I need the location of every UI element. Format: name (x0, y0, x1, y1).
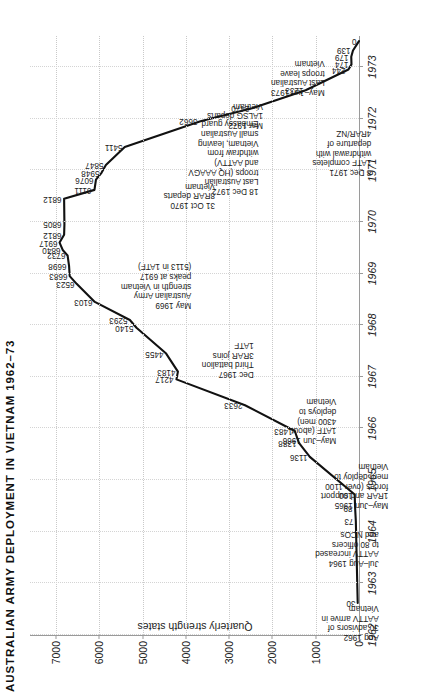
annotation-line: 30 advisors of (322, 622, 379, 632)
data-point-label: 5847 (85, 161, 103, 170)
data-point-label: 5411 (105, 143, 123, 152)
y-tick-mark (185, 635, 186, 639)
y-axis-tick-label: 7000 (50, 641, 62, 687)
annotation-may-jun-1966: May–Jun 19661ATF (about4300 men)deploys … (283, 397, 337, 445)
data-point-label: 6683 (49, 272, 67, 281)
annotation-line: 1ATF (202, 340, 254, 350)
x-tick-mark (359, 66, 363, 67)
annotation-line: Jul–Aug 1964 (316, 558, 380, 568)
annotation-line: strength in Vietnam (121, 282, 191, 292)
annotation-line: Embassy guard (188, 119, 258, 129)
annotation-line: Vietnam (321, 462, 388, 472)
data-point-label: 6698 (48, 261, 66, 270)
annotation-line: May–Jun 1973 (271, 87, 325, 97)
gridline-vertical (30, 634, 359, 635)
y-axis-tick-label: 2000 (266, 641, 278, 687)
gridline-horizontal (186, 36, 187, 635)
data-point-label: 5140 (116, 323, 134, 332)
annotation-line: Last Australian (188, 177, 258, 187)
gridline-horizontal (143, 36, 144, 635)
annotation-may-jun-1973: May–Jun 1973Last Australiantroops leaveV… (271, 58, 325, 97)
annotation-line: 18 Dec 1972 (188, 186, 258, 196)
x-axis-tick-label: 1972 (366, 107, 378, 130)
x-axis-tick-label: 1966 (366, 417, 378, 440)
annotation-line: 1ATF completes (312, 158, 371, 168)
y-tick-mark (315, 635, 316, 639)
x-axis-tick-label: 1967 (366, 365, 378, 388)
gridline-horizontal (56, 36, 57, 635)
x-tick-mark (359, 376, 363, 377)
annotation-line: Vietnam (207, 101, 263, 111)
annotation-line: May 1969 (121, 301, 191, 311)
annotation-line: forces (over 1100 (321, 481, 388, 491)
x-tick-mark (359, 324, 363, 325)
data-point-label: 5293 (109, 316, 127, 325)
y-axis-tick-label: 1000 (310, 641, 322, 687)
gridline-vertical (30, 479, 359, 480)
data-point-label: 6812 (43, 230, 61, 239)
data-point-label: 0 (352, 37, 357, 46)
annotation-line: peaks at 6917 (121, 272, 191, 282)
annotation-line: Last Australian (271, 77, 325, 87)
page-title: AUSTRALIAN ARMY DEPLOYMENT IN VIETNAM 19… (4, 340, 16, 692)
x-tick-mark (359, 273, 363, 274)
y-tick-mark (229, 635, 230, 639)
annotation-line: 4RAR/NZ (312, 129, 371, 139)
annotation-line: Vietnam (322, 603, 379, 613)
annotation-line: Aug 1962 (322, 632, 379, 642)
gridline-vertical (30, 324, 359, 325)
gridline-vertical (30, 582, 359, 583)
figure-rotation-wrapper: AUSTRALIAN ARMY DEPLOYMENT IN VIETNAM 19… (0, 0, 430, 698)
annotation-line: Vietnam (283, 397, 337, 407)
gridline-vertical (30, 221, 359, 222)
annotation-line: deploys to (283, 407, 337, 417)
y-tick-mark (99, 635, 100, 639)
annotation-line: May–Jun 1966 (283, 436, 337, 446)
data-point-label: 6103 (74, 297, 92, 306)
data-point-label: 6812 (43, 194, 61, 203)
x-tick-mark (359, 582, 363, 583)
data-point-label: 6805 (44, 220, 62, 229)
y-tick-mark (142, 635, 143, 639)
annotation-may-jun-1965: May–Jun 19651RAR and supportforces (over… (321, 462, 388, 510)
annotation-line: (5113 in 1ATF) (121, 262, 191, 272)
gridline-horizontal (272, 36, 273, 635)
annotation-aug-1962: Aug 196230 advisors ofAATTV arrive inVie… (322, 603, 379, 642)
gridline-vertical (30, 376, 359, 377)
x-axis-tick-label: 1970 (366, 210, 378, 233)
annotation-line: Third battalion (202, 359, 254, 369)
y-axis-tick-label: 0 (353, 641, 365, 687)
annotation-dec-1967: Dec 1967Third battalion3RAR joins1ATF (202, 340, 254, 379)
data-point-label: 2633 (224, 401, 242, 410)
annotation-line: AATTV arrive in (322, 613, 379, 623)
x-tick-mark (359, 118, 363, 119)
x-axis-tick-label: 1968 (366, 314, 378, 337)
annotation-line: 4300 men) (283, 417, 337, 427)
x-axis-tick-label: 1969 (366, 262, 378, 285)
y-tick-mark (55, 635, 56, 639)
annotation-dec-1971: 8 Dec 19711ATF completeswithdrawal withd… (312, 129, 371, 177)
data-point-label: 73 (344, 517, 353, 526)
annotation-line: withdraw from (188, 148, 258, 158)
annotation-dec-1972: 18 Dec 1972Last Australiantroops (HQ AAA… (188, 119, 258, 196)
y-axis-tick-label: 3000 (223, 641, 235, 687)
chart-figure: AUSTRALIAN ARMY DEPLOYMENT IN VIETNAM 19… (0, 0, 430, 698)
data-point-label: 5948 (81, 168, 99, 177)
annotation-line: and NCOs (316, 529, 380, 539)
annotation-line: and AATTV) (188, 157, 258, 167)
data-point-label: 6111 (75, 185, 92, 194)
annotation-line: departure of (312, 139, 371, 149)
x-tick-mark (359, 427, 363, 428)
annotation-line: Australian Army (121, 291, 191, 301)
data-point-label: 139 (337, 46, 351, 55)
annotation-line: small Australian (188, 128, 258, 138)
data-point-label: 6523 (56, 279, 74, 288)
annotation-line: Vietnam, leaving (188, 138, 258, 148)
plot-area: Quarterly strength states 01000200030004… (30, 36, 360, 636)
annotation-line: 3RAR joins (202, 349, 254, 359)
annotation-line: Dec 1967 (202, 369, 254, 379)
annotation-line: to 80 officers (316, 539, 380, 549)
x-axis-tick-label: 1963 (366, 572, 378, 595)
y-axis-tick-label: 4000 (180, 641, 192, 687)
annotation-line: 31 Oct 1970 (164, 200, 215, 210)
